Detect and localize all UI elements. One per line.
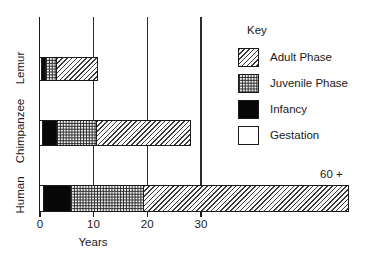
- legend: Key Adult Phase Juvenile Phase Infancy G…: [238, 24, 370, 148]
- legend-title: Key: [247, 24, 370, 36]
- legend-swatch-infancy-icon: [238, 100, 259, 119]
- bar-human: [39, 185, 349, 212]
- segment-chimpanzee-adult: [97, 121, 190, 145]
- category-label-lemur: Lemur: [14, 42, 26, 94]
- xtick-label-20: 20: [141, 218, 154, 231]
- xtick-30: [200, 212, 201, 217]
- legend-label-infancy: Infancy: [270, 103, 307, 115]
- gridline-30: [200, 17, 201, 213]
- legend-swatch-juvenile-icon: [238, 74, 259, 93]
- bar-lemur: [39, 57, 98, 81]
- x-axis-title: Years: [79, 236, 108, 248]
- category-label-chimpanzee: Chimpanzee: [14, 93, 26, 169]
- bar-chart-figure: 0 10 20 30 Years Lemur Chimpanzee Human: [0, 0, 372, 259]
- segment-lemur-adult: [57, 58, 97, 80]
- legend-label-gestation: Gestation: [270, 129, 319, 141]
- legend-label-juvenile: Juvenile Phase: [270, 77, 348, 89]
- bar-annotation-human: 60 +: [320, 168, 343, 180]
- xtick-label-0: 0: [37, 218, 43, 231]
- xtick-0: [39, 212, 40, 217]
- legend-row-gestation: Gestation: [238, 122, 370, 148]
- gridline-20: [147, 17, 148, 213]
- segment-chimpanzee-juvenile: [57, 121, 97, 145]
- bar-chimpanzee: [39, 120, 191, 146]
- segment-human-infancy: [44, 186, 71, 211]
- legend-row-infancy: Infancy: [238, 96, 370, 122]
- legend-row-adult: Adult Phase: [238, 44, 370, 70]
- xtick-label-10: 10: [87, 218, 100, 231]
- segment-human-adult: [144, 186, 349, 211]
- segment-human-juvenile: [71, 186, 143, 211]
- y-axis-line: [39, 17, 40, 213]
- xtick-10: [93, 212, 94, 217]
- segment-lemur-juvenile: [46, 58, 57, 80]
- segment-chimpanzee-infancy: [43, 121, 56, 145]
- legend-swatch-gestation-icon: [238, 126, 259, 145]
- category-label-human: Human: [14, 166, 26, 224]
- legend-label-adult: Adult Phase: [270, 51, 332, 63]
- xtick-20: [147, 212, 148, 217]
- gridline-10: [93, 17, 94, 213]
- legend-swatch-adult-icon: [238, 48, 259, 67]
- xtick-label-30: 30: [195, 218, 208, 231]
- legend-row-juvenile: Juvenile Phase: [238, 70, 370, 96]
